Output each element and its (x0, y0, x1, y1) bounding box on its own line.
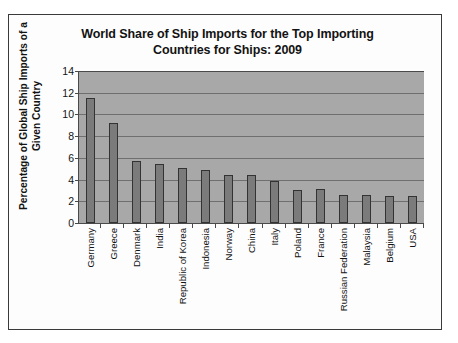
bar-slot (102, 71, 125, 223)
bar-china[interactable] (247, 175, 256, 223)
bar-germany[interactable] (86, 98, 95, 223)
x-axis-label-malaysia: Malaysia (361, 228, 372, 266)
bar-slot (286, 71, 309, 223)
x-axis-label-norway: Norway (223, 228, 234, 261)
chart-title: World Share of Ship Imports for the Top … (55, 26, 400, 58)
x-label-cell: China (239, 228, 262, 332)
x-axis-label-india: India (154, 228, 165, 249)
y-tick-label: 10 (62, 108, 74, 120)
chart-title-line-1: World Share of Ship Imports for the Top … (55, 26, 400, 42)
bar-greece[interactable] (109, 123, 118, 223)
y-tick-label: 14 (62, 65, 74, 77)
y-tick-label: 8 (68, 130, 74, 142)
bar-slot (217, 71, 240, 223)
plot-area: 14121086420 (78, 71, 424, 224)
y-axis-title-line-2: Given Country (30, 21, 43, 211)
x-label-cell: Greece (101, 228, 124, 332)
x-label-cell: France (309, 228, 332, 332)
bar-indonesia[interactable] (201, 170, 210, 223)
x-label-cell: Russian Federation (332, 228, 355, 332)
bar-slot (355, 71, 378, 223)
bar-slot (194, 71, 217, 223)
x-label-cell: Malaysia (355, 228, 378, 332)
y-tick-label: 0 (68, 217, 74, 229)
plot-area-wrapper: 14121086420 (78, 71, 424, 224)
bar-norway[interactable] (224, 175, 233, 223)
bar-usa[interactable] (408, 196, 417, 223)
x-label-cell: Poland (286, 228, 309, 332)
bar-slot (148, 71, 171, 223)
y-tick-label: 2 (68, 195, 74, 207)
bar-series (79, 71, 424, 223)
y-tick-label: 6 (68, 152, 74, 164)
bar-italy[interactable] (270, 181, 279, 223)
y-tick-label: 12 (62, 87, 74, 99)
bar-slot (263, 71, 286, 223)
bar-slot (309, 71, 332, 223)
x-axis-label-poland: Poland (292, 228, 303, 258)
x-label-cell: Republic of Korea (170, 228, 193, 332)
x-axis-labels: GermanyGreeceDenmarkIndiaRepublic of Kor… (78, 228, 424, 332)
x-label-cell: India (147, 228, 170, 332)
x-label-cell: Norway (216, 228, 239, 332)
bar-denmark[interactable] (132, 161, 141, 223)
bar-france[interactable] (316, 189, 325, 223)
bar-slot (125, 71, 148, 223)
chart-title-line-2: Countries for Ships: 2009 (55, 42, 400, 58)
x-axis-label-china: China (246, 228, 257, 253)
bar-belgium[interactable] (385, 196, 394, 223)
x-label-cell: USA (401, 228, 424, 332)
x-axis-label-belgium: Belgium (384, 228, 395, 263)
bar-slot (171, 71, 194, 223)
bar-malaysia[interactable] (362, 195, 371, 223)
x-label-cell: Belgium (378, 228, 401, 332)
x-axis-label-greece: Greece (108, 228, 119, 259)
x-axis-label-usa: USA (407, 228, 418, 248)
bar-poland[interactable] (293, 190, 302, 223)
bar-india[interactable] (155, 164, 164, 223)
bar-slot (332, 71, 355, 223)
x-label-cell: Germany (78, 228, 101, 332)
x-axis-label-france: France (315, 228, 326, 258)
x-axis-label-denmark: Denmark (131, 228, 142, 267)
bar-russian-federation[interactable] (339, 195, 348, 223)
y-axis-title: Percentage of Global Ship Imports of a G… (17, 21, 49, 211)
y-axis-title-line-1: Percentage of Global Ship Imports of a (17, 21, 30, 211)
y-tick-label: 4 (68, 174, 74, 186)
bar-slot (401, 71, 424, 223)
bar-slot (378, 71, 401, 223)
bar-slot (79, 71, 102, 223)
x-label-cell: Denmark (124, 228, 147, 332)
x-label-cell: Indonesia (193, 228, 216, 332)
x-axis-label-russian-federation: Russian Federation (338, 228, 349, 311)
x-axis-label-italy: Italy (269, 228, 280, 246)
bar-republic-of-korea[interactable] (178, 168, 187, 223)
x-axis-label-indonesia: Indonesia (200, 228, 211, 270)
x-label-cell: Italy (263, 228, 286, 332)
bar-slot (240, 71, 263, 223)
x-axis-label-republic-of-korea: Republic of Korea (177, 228, 188, 304)
x-axis-label-germany: Germany (85, 228, 96, 267)
